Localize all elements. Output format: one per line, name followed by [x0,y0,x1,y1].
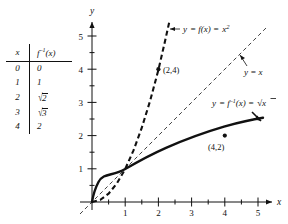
y-tick-label-5: 5 [79,32,84,42]
parabola-label-y: y [182,24,187,34]
x-tick-label-4: 4 [223,208,228,218]
parabola-label-eq: = f(x) = [190,24,219,34]
y-tick-label-3: 3 [79,98,84,108]
inverse-label-y: y [211,98,216,108]
sqrt-curve [92,118,263,202]
parabola-equation-label: y= f(x) =x2 [182,23,230,35]
parabola-label-exponent: 2 [226,23,230,30]
y-axis-label: y [89,6,95,16]
inverse-label-tail: (x) = [236,98,254,108]
y-axis-arrow-icon [89,22,94,28]
x-tick-label-3: 3 [189,208,194,218]
point-marker-4-2 [223,134,227,138]
x-axis-arrow-icon [266,199,272,204]
inverse-label-sqrt: √x [257,98,266,108]
inverse-label-exponent: –1 [229,98,236,104]
x-axis-label: x [276,197,282,207]
x-tick-label-1: 1 [123,208,128,218]
point-label-2-4: (2,4) [163,65,179,75]
inverse-equation-label: y= f–1(x) =√x [211,98,266,109]
identity-equation-label: y = x [243,67,263,77]
x-tick-label-5: 5 [256,208,261,218]
y-tick-label-4: 4 [79,65,84,75]
point-marker-2-4 [156,67,160,71]
point-label-4-2: (4,2) [208,142,224,152]
x-tick-label-2: 2 [156,208,161,218]
graph-figure: 1 2 3 4 5 1 2 3 4 5 x y (2,4) (4,2) y= f… [0,0,288,224]
identity-leader-arrow-icon [240,55,245,60]
identity-line [80,28,266,214]
y-tick-label-1: 1 [79,164,84,174]
parabola-leader-arrow-icon [170,27,175,31]
parabola-curve [92,22,169,203]
y-tick-label-2: 2 [79,131,84,141]
